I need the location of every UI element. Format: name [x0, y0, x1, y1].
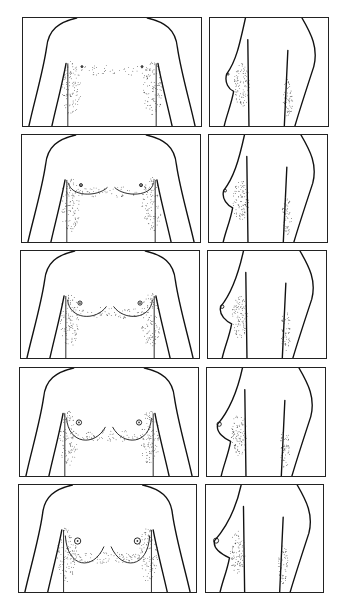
torso-side-drawing	[206, 485, 323, 592]
side-view-panel-stage-4	[206, 367, 326, 477]
front-view-panel-stage-5	[18, 484, 197, 593]
front-view-panel-stage-3	[20, 250, 200, 359]
torso-side-drawing	[207, 368, 325, 476]
side-view-panel-stage-2	[208, 134, 328, 243]
side-view-panel-stage-3	[207, 250, 327, 359]
front-view-panel-stage-1	[22, 17, 202, 127]
front-view-panel-stage-4	[19, 367, 199, 477]
torso-front-drawing	[21, 251, 199, 358]
side-view-panel-stage-1	[209, 17, 329, 127]
torso-front-drawing	[22, 135, 200, 242]
torso-front-drawing	[20, 368, 198, 476]
torso-side-drawing	[208, 251, 326, 358]
torso-side-drawing	[209, 135, 327, 242]
torso-front-drawing	[19, 485, 196, 592]
side-view-panel-stage-5	[205, 484, 324, 593]
torso-side-drawing	[210, 18, 328, 126]
torso-front-drawing	[23, 18, 201, 126]
front-view-panel-stage-2	[21, 134, 201, 243]
